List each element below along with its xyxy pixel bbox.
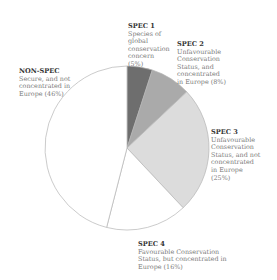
- label-spec4: SPEC 4 Favourable ConservationStatus, bu…: [138, 241, 227, 271]
- label-spec1: SPEC 1 Species ofglobalconservationconce…: [128, 23, 170, 69]
- label-spec1-text: Species ofglobalconservationconcern(5%): [128, 30, 170, 68]
- label-spec3: SPEC 3 UnfavourableConservationStatus, a…: [211, 129, 260, 182]
- label-spec3-text: UnfavourableConservationStatus, and notc…: [211, 136, 260, 182]
- label-nonspec: NON-SPEC Secure, and notconcentrated inE…: [19, 68, 70, 98]
- label-spec4-text: Favourable ConservationStatus, but conce…: [138, 248, 227, 271]
- label-spec2: SPEC 2 UnfavourableConservationStatus, a…: [177, 41, 226, 87]
- label-nonspec-text: Secure, and notconcentrated inEurope (46…: [19, 75, 70, 98]
- label-spec2-text: UnfavourableConservationStatus, andconce…: [177, 48, 226, 86]
